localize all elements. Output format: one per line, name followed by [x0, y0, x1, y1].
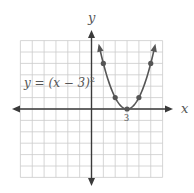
x-tick-label-3: 3: [124, 112, 129, 123]
parabola-graph: x y 3 y = (x − 3)2: [0, 0, 194, 193]
arrow-up-icon: [88, 30, 95, 38]
curve-arrow-left-icon: [97, 44, 103, 53]
data-point: [101, 61, 106, 66]
data-point: [124, 106, 129, 111]
axes: [12, 30, 173, 186]
data-point: [148, 61, 153, 66]
equation-label: y = (x − 3)2: [23, 75, 95, 90]
curve-arrow-right-icon: [151, 44, 157, 53]
arrow-right-icon: [165, 106, 173, 113]
x-axis-label: x: [181, 101, 189, 116]
data-point: [136, 95, 141, 100]
arrow-left-icon: [12, 106, 20, 113]
y-axis-label: y: [87, 10, 96, 25]
equation-exponent: 2: [90, 75, 95, 84]
equation-text: y = (x − 3): [23, 76, 90, 90]
arrow-down-icon: [88, 178, 95, 186]
data-point: [113, 95, 118, 100]
